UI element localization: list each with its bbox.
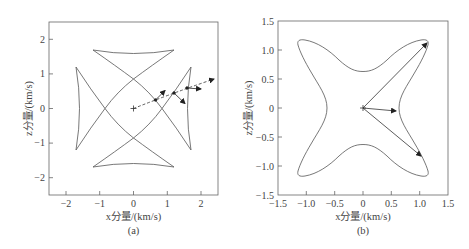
diag-branch-2 xyxy=(76,50,174,150)
y-tick-labels-b: 1.5 1.0 0.5 0 −0.5 −1.0 −1.5 xyxy=(256,16,274,201)
x-axis-label-b: x分量/(km/s) xyxy=(335,211,391,223)
x-tick-label: 1 xyxy=(165,198,170,209)
y-ticks-b xyxy=(278,50,282,166)
diag-branch-4 xyxy=(93,67,191,167)
y-tick-label: −1.0 xyxy=(256,161,274,172)
star-quadrant xyxy=(298,40,363,108)
y-tick-labels-a: 2 1 0 −1 −2 xyxy=(34,34,45,184)
x-tick-labels-a: −2 −1 0 1 2 xyxy=(61,198,204,209)
vector-arrow xyxy=(156,91,166,101)
left-arc xyxy=(76,67,80,150)
panel-a: −2 −1 0 1 2 2 1 0 −1 −2 x分量/(km/s) z分量/(… xyxy=(23,22,218,237)
y-tick-label: 0.5 xyxy=(262,74,275,85)
y-axis-label-a: z分量/(km/s) xyxy=(23,81,35,136)
x-ticks-b xyxy=(306,191,419,195)
diag-branch-1 xyxy=(93,50,191,150)
x-tick-label: 1.0 xyxy=(413,198,426,209)
caption-b: (b) xyxy=(357,225,370,237)
diag-branch-3 xyxy=(76,67,174,167)
x-axis-label-a: x分量/(km/s) xyxy=(106,211,162,223)
x-ticks-a xyxy=(66,191,201,195)
panel-b: −1.5 −1.0 −0.5 0 0.5 1.0 1.5 1.5 1.0 0.5… xyxy=(243,16,454,238)
y-tick-label: 2 xyxy=(40,34,45,45)
y-tick-label: −0.5 xyxy=(256,132,274,143)
right-arc xyxy=(188,67,192,150)
y-tick-label: 0 xyxy=(40,103,45,114)
y-tick-label: −1 xyxy=(34,137,45,148)
x-tick-label: −1 xyxy=(94,198,105,209)
star-quadrant xyxy=(298,108,363,176)
figure: −2 −1 0 1 2 2 1 0 −1 −2 x分量/(km/s) z分量/(… xyxy=(0,0,469,249)
y-tick-label: 1.0 xyxy=(262,45,275,56)
vector-arrow xyxy=(187,88,201,89)
x-tick-label: −2 xyxy=(61,198,72,209)
x-tick-label: −1.0 xyxy=(297,198,315,209)
y-ticks-a xyxy=(49,39,53,177)
x-tick-labels-b: −1.5 −1.0 −0.5 0 0.5 1.0 1.5 xyxy=(269,198,454,209)
x-tick-label: 1.5 xyxy=(442,198,455,209)
vector-arrow xyxy=(174,93,185,104)
vector-arrow xyxy=(363,108,421,156)
arrows-a xyxy=(154,87,201,104)
star-quadrant xyxy=(363,108,428,176)
x-tick-label: −0.5 xyxy=(326,198,344,209)
y-tick-label: 1.5 xyxy=(262,16,275,27)
origin-cross-icon-a xyxy=(131,106,137,112)
y-tick-label: 0 xyxy=(269,103,274,114)
caption-a: (a) xyxy=(128,225,140,237)
x-tick-label: 0 xyxy=(361,198,366,209)
x-tick-label: 0 xyxy=(131,198,136,209)
x-tick-label: 0.5 xyxy=(385,198,398,209)
arrows-b xyxy=(363,43,427,156)
top-arc xyxy=(93,50,174,54)
y-tick-label: −2 xyxy=(34,172,45,183)
x-tick-label: 2 xyxy=(199,198,204,209)
bottom-arc xyxy=(93,164,174,168)
y-axis-label-b: z分量/(km/s) xyxy=(243,80,255,135)
y-tick-label: 1 xyxy=(40,68,45,79)
vector-arrow xyxy=(363,108,396,111)
y-tick-label: −1.5 xyxy=(256,190,274,201)
